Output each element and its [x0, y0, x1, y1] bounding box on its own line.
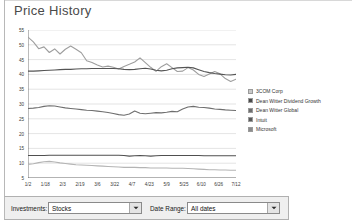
price-history-window: Price History 510152025303540455055 1/21…	[0, 0, 356, 221]
y-axis-tick-label: 10	[10, 161, 24, 166]
legend-swatch-icon	[248, 89, 253, 94]
y-axis-tick-label: 5	[10, 176, 24, 181]
x-axis-tick-label: 5/25	[180, 182, 189, 187]
y-axis-tick-label: 25	[10, 116, 24, 121]
chart-legend: 3COM CorpDean Witter Dividend GrowthDean…	[248, 87, 352, 135]
legend-item[interactable]: Dean Witter Global	[248, 106, 352, 114]
y-axis-tick-label: 15	[10, 146, 24, 151]
x-axis-tick-label: 3/22	[110, 182, 119, 187]
x-axis-tick-label: 6/26	[214, 182, 223, 187]
investments-select[interactable]: Stocks	[48, 202, 142, 214]
y-axis-tick-label: 30	[10, 102, 24, 107]
x-axis-tick-label: 3/6	[94, 182, 100, 187]
x-axis-tick-label: 5/9	[163, 182, 169, 187]
y-axis-tick-label: 50	[10, 42, 24, 47]
legend-item[interactable]: Dean Witter Dividend Growth	[248, 97, 352, 105]
y-axis-tick-label: 20	[10, 131, 24, 136]
legend-swatch-icon	[248, 117, 253, 122]
y-axis-tick-label: 55	[10, 28, 24, 33]
legend-item[interactable]: Microsoft	[248, 125, 352, 133]
legend-swatch-icon	[248, 108, 253, 113]
legend-item-label: Dean Witter Dividend Growth	[256, 98, 321, 104]
x-axis-tick-label: 4/23	[145, 182, 154, 187]
legend-item[interactable]: Intuit	[248, 116, 352, 124]
legend-item-label: Intuit	[256, 117, 267, 123]
x-axis-tick-label: 1/2	[25, 182, 31, 187]
plot-area	[28, 30, 236, 178]
date-range-select[interactable]: All dates	[187, 202, 280, 214]
x-axis-tick-label: 6/10	[197, 182, 206, 187]
chevron-down-icon[interactable]	[267, 203, 279, 213]
investments-label: Investments:	[11, 205, 47, 212]
legend-item[interactable]: 3COM Corp	[248, 87, 352, 95]
y-axis-tick-label: 45	[10, 57, 24, 62]
legend-item-label: Dean Witter Global	[256, 107, 298, 113]
x-axis-tick-label: 2/3	[59, 182, 65, 187]
chart-svg	[28, 30, 236, 178]
chevron-down-icon[interactable]	[129, 203, 141, 213]
legend-item-label: Microsoft	[256, 126, 276, 132]
x-axis-tick-label: 4/7	[129, 182, 135, 187]
investments-select-value: Stocks	[49, 205, 129, 212]
x-axis-tick-label: 7/12	[232, 182, 241, 187]
x-axis-tick-label: 2/19	[76, 182, 85, 187]
y-axis-tick-label: 35	[10, 87, 24, 92]
x-axis-tick-label: 1/18	[41, 182, 50, 187]
page-title: Price History	[14, 3, 92, 18]
filter-toolbar: Investments: Stocks Date Range: All date…	[4, 196, 289, 220]
legend-swatch-icon	[248, 98, 253, 103]
date-range-select-value: All dates	[188, 205, 267, 212]
y-axis-tick-label: 40	[10, 72, 24, 77]
window-top-border	[4, 0, 352, 1]
legend-swatch-icon	[248, 127, 253, 132]
legend-item-label: 3COM Corp	[256, 88, 283, 94]
price-history-chart: 510152025303540455055 1/21/182/32/193/63…	[10, 26, 242, 186]
date-range-label: Date Range:	[150, 205, 186, 212]
window-left-border	[4, 0, 5, 196]
